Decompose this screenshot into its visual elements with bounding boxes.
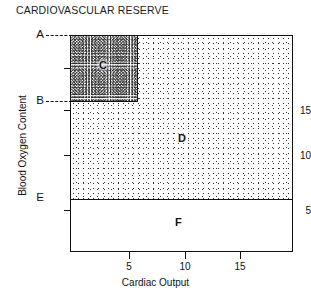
x-tick-15: [240, 252, 241, 259]
y-axis-title: Blood Oxygen Content: [17, 66, 28, 226]
region-label-f: F: [175, 216, 182, 228]
x-tick-5: [129, 252, 130, 259]
y-tick-label-5: 5: [265, 205, 311, 216]
y-tick-label-10: 10: [265, 150, 311, 161]
x-axis-title: Cardiac Output: [0, 277, 311, 288]
y-tick-5: [64, 210, 71, 211]
x-tick-label-15: 15: [225, 261, 255, 272]
plot-area: C D F: [70, 35, 293, 252]
y-tick-label-15: 15: [265, 105, 311, 116]
marker-line-b: [46, 101, 72, 102]
y-tick-20: [64, 68, 71, 69]
x-tick-label-10: 10: [170, 261, 200, 272]
region-label-c: C: [99, 59, 107, 71]
marker-line-a: [46, 35, 72, 36]
y-marker-a: A: [30, 28, 44, 40]
region-label-d: D: [178, 132, 186, 144]
y-tick-10: [64, 155, 71, 156]
cardiovascular-reserve-figure: CARDIOVASCULAR RESERVE C D F A B E 15 10…: [0, 0, 311, 308]
x-tick-label-5: 5: [114, 261, 144, 272]
x-tick-10: [185, 252, 186, 259]
chart-title: CARDIOVASCULAR RESERVE: [16, 4, 169, 16]
y-marker-e: E: [30, 191, 44, 203]
y-marker-b: B: [30, 94, 44, 106]
y-tick-15: [64, 110, 71, 111]
